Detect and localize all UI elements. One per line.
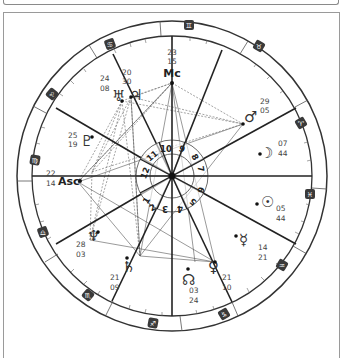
- ascendant: 22 14 Asc: [46, 169, 82, 188]
- chart-center: [169, 173, 176, 180]
- planet-neptune: 28 03 ♆: [76, 227, 100, 259]
- svg-text:♑: ♑: [221, 311, 227, 319]
- venus-icon: ♀: [208, 258, 219, 276]
- midheaven: 23 15 Mc: [163, 48, 180, 85]
- gemini-icon: ♊: [184, 20, 194, 30]
- svg-text:24: 24: [189, 296, 199, 305]
- aries-icon: ♈: [294, 116, 308, 130]
- node-icon: ☊: [182, 271, 195, 289]
- planet-moon: 07 44 ☽: [258, 139, 288, 162]
- svg-text:07: 07: [278, 139, 288, 148]
- neptune-icon: ♆: [87, 227, 100, 245]
- capricorn-icon: ♑: [217, 307, 231, 321]
- svg-text:♒: ♒: [279, 262, 285, 270]
- svg-text:25: 25: [68, 131, 78, 140]
- libra-icon: ♎: [37, 226, 50, 239]
- svg-text:03: 03: [76, 250, 86, 259]
- jupiter-icon: ♃: [129, 86, 142, 104]
- planet-pluto: 25 19 ♇: [68, 131, 94, 150]
- asc-label: Asc: [58, 175, 80, 188]
- svg-text:09: 09: [110, 283, 120, 292]
- mercury-icon: ☿: [239, 231, 248, 249]
- svg-text:29: 29: [260, 97, 270, 106]
- planet-mars: 29 05 ♂: [241, 97, 270, 126]
- house-3: 3: [162, 204, 168, 214]
- svg-text:22: 22: [46, 169, 56, 178]
- svg-text:05: 05: [260, 106, 270, 115]
- svg-text:21: 21: [110, 273, 120, 282]
- mars-icon: ♂: [244, 108, 257, 126]
- planet-saturn: 21 09 ♄: [110, 256, 135, 292]
- svg-text:30: 30: [122, 77, 132, 86]
- svg-text:19: 19: [68, 140, 78, 149]
- scorpio-icon: ♏: [81, 288, 95, 302]
- pisces-icon: ♓: [305, 189, 315, 199]
- svg-text:♐: ♐: [150, 320, 156, 328]
- svg-text:♎: ♎: [40, 229, 46, 237]
- svg-text:08: 08: [100, 84, 110, 93]
- virgo-icon: ♍: [29, 154, 41, 166]
- svg-text:21: 21: [258, 253, 268, 262]
- svg-text:♍: ♍: [32, 157, 38, 165]
- leo-icon: ♌: [45, 87, 59, 101]
- saturn-icon: ♄: [122, 258, 135, 276]
- svg-text:♓: ♓: [307, 191, 313, 199]
- planet-sun: 05 44 ☉: [255, 193, 286, 223]
- svg-text:24: 24: [100, 74, 110, 83]
- moon-icon: ☽: [260, 144, 273, 162]
- svg-text:14: 14: [258, 243, 268, 252]
- sagittarius-icon: ♐: [147, 317, 159, 329]
- svg-text:♏: ♏: [85, 292, 92, 300]
- svg-text:23: 23: [167, 48, 177, 57]
- planet-mercury: 14 21 ☿: [234, 231, 268, 262]
- svg-text:15: 15: [167, 57, 177, 66]
- svg-text:44: 44: [278, 149, 288, 158]
- pluto-icon: ♇: [80, 132, 93, 150]
- mc-label: Mc: [163, 67, 180, 80]
- svg-text:♉: ♉: [256, 43, 262, 51]
- svg-text:20: 20: [122, 68, 132, 77]
- planet-node: 03 24 ☊: [182, 267, 199, 305]
- svg-text:21: 21: [222, 273, 232, 282]
- svg-text:♌: ♌: [49, 91, 55, 99]
- svg-text:♈: ♈: [298, 120, 304, 128]
- svg-text:05: 05: [276, 204, 286, 213]
- svg-text:10: 10: [222, 283, 232, 292]
- house-4: 4: [177, 204, 183, 214]
- svg-text:44: 44: [276, 214, 286, 223]
- sun-icon: ☉: [261, 193, 274, 211]
- svg-text:♊: ♊: [186, 22, 192, 30]
- house-10: 10: [160, 144, 172, 154]
- svg-text:14: 14: [46, 179, 56, 188]
- svg-text:28: 28: [76, 240, 86, 249]
- uranus-icon: ♅: [112, 87, 125, 105]
- aquarius-icon: ♒: [275, 258, 289, 272]
- svg-text:♋: ♋: [107, 41, 113, 49]
